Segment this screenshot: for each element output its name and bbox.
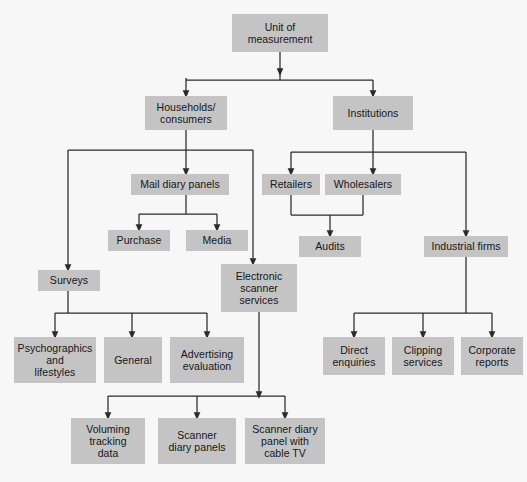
- node-institutions[interactable]: Institutions: [333, 96, 413, 130]
- node-direct-enquiries[interactable]: Direct enquiries: [323, 337, 385, 375]
- node-clipping-services[interactable]: Clipping services: [392, 337, 454, 375]
- node-voluming-tracking-data[interactable]: Voluming tracking data: [71, 418, 145, 464]
- node-purchase[interactable]: Purchase: [108, 230, 170, 251]
- node-industrial-firms[interactable]: Industrial firms: [424, 236, 508, 257]
- node-mail-diary-panels[interactable]: Mail diary panels: [131, 174, 229, 195]
- node-unit-of-measurement[interactable]: Unit of measurement: [232, 14, 328, 52]
- node-audits[interactable]: Audits: [299, 236, 361, 257]
- node-retailers[interactable]: Retailers: [262, 174, 320, 195]
- node-surveys[interactable]: Surveys: [38, 270, 100, 291]
- diagram-canvas: Unit of measurement Households/ consumer…: [0, 0, 527, 482]
- node-media[interactable]: Media: [186, 230, 248, 251]
- node-households-consumers[interactable]: Households/ consumers: [145, 96, 227, 130]
- node-general[interactable]: General: [104, 337, 162, 383]
- node-advertising-evaluation[interactable]: Advertising evaluation: [170, 337, 244, 383]
- node-electronic-scanner-services[interactable]: Electronic scanner services: [221, 264, 297, 312]
- node-psychographics-and-lifestyles[interactable]: Psychographics and lifestyles: [14, 337, 96, 383]
- node-scanner-diary-panel-with-cable-tv[interactable]: Scanner diary panel with cable TV: [245, 418, 325, 464]
- node-scanner-diary-panels[interactable]: Scanner diary panels: [158, 418, 236, 464]
- node-wholesalers[interactable]: Wholesalers: [325, 174, 401, 195]
- node-corporate-reports[interactable]: Corporate reports: [461, 337, 523, 375]
